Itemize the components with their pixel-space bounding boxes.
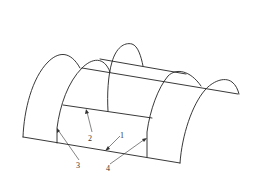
label-1: 1 (120, 131, 124, 140)
top-longitudinal-line-lower (82, 68, 238, 94)
arrow-4-icon (142, 138, 147, 142)
leader-3 (58, 130, 79, 160)
arch-structure-diagram: 1 2 3 4 (0, 0, 259, 181)
left-outer-arch (23, 54, 80, 137)
top-longitudinal-line-upper (100, 59, 186, 74)
leader-4 (110, 139, 145, 164)
base-line (23, 137, 180, 163)
label-3: 3 (76, 161, 80, 170)
label-2: 2 (88, 134, 92, 143)
front-frame-arch (57, 60, 110, 143)
label-4: 4 (106, 164, 110, 173)
leader-2 (87, 112, 92, 132)
right-outer-arch (180, 80, 239, 163)
arrow-2-icon (85, 109, 89, 114)
leader-1 (107, 136, 120, 149)
right-inner-arch (147, 71, 201, 157)
